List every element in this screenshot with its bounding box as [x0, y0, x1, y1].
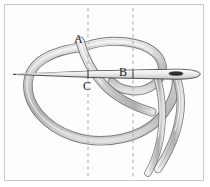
label-a: A: [74, 33, 83, 45]
label-b: B: [119, 66, 127, 78]
thread-main-loop: [25, 45, 177, 144]
needle-eye: [169, 72, 183, 76]
illustration-canvas: A B C: [0, 0, 210, 187]
label-c: C: [83, 80, 91, 92]
knot-diagram: [0, 0, 210, 187]
sewing-needle: [13, 69, 200, 79]
